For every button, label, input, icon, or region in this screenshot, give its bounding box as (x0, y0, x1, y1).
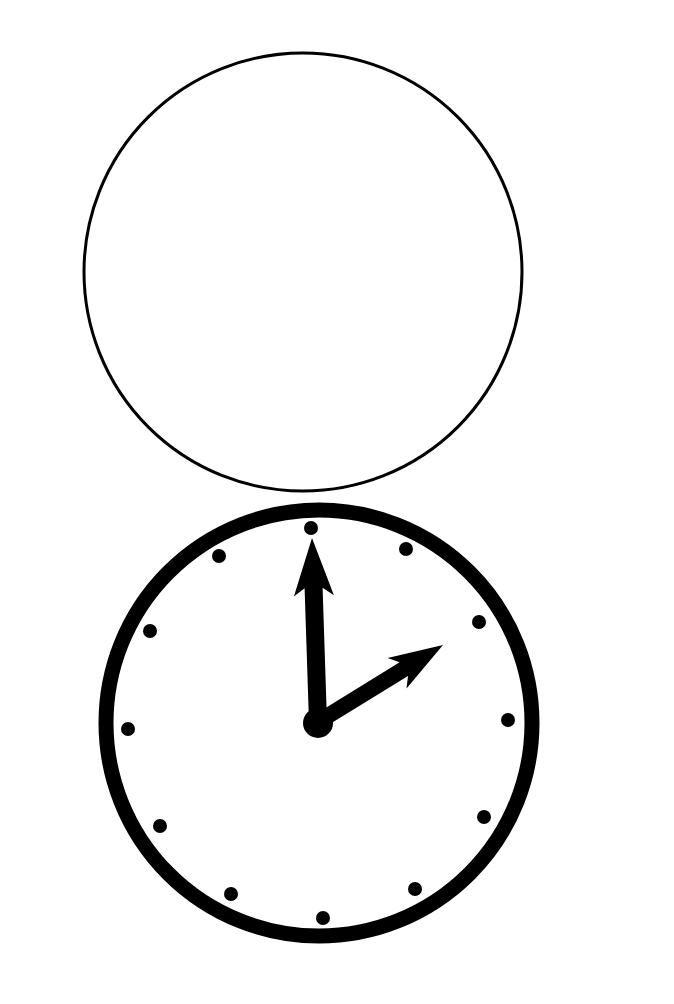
hour-marker-4 (477, 810, 491, 824)
hour-marker-8 (153, 819, 167, 833)
hour-marker-6 (316, 911, 330, 925)
hour-marker-12 (304, 521, 318, 535)
hour-marker-11 (212, 549, 226, 563)
hour-marker-2 (472, 615, 486, 629)
hour-marker-9 (121, 722, 135, 736)
hour-marker-1 (399, 542, 413, 556)
clock-icon (106, 510, 532, 936)
clock-worksheet (0, 0, 674, 1004)
hour-marker-7 (224, 887, 238, 901)
hour-marker-5 (408, 882, 422, 896)
clock-hub (303, 708, 333, 738)
hour-marker-10 (143, 624, 157, 638)
hour-marker-3 (501, 713, 515, 727)
